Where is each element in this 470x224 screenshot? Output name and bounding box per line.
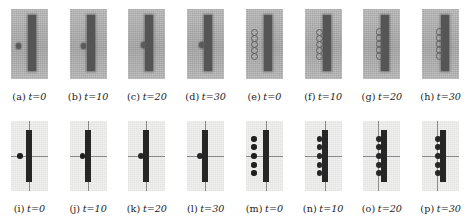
panel-cell-f: (f)t=10	[294, 0, 353, 112]
particle	[251, 144, 256, 149]
particle	[16, 43, 21, 48]
panel-i	[11, 121, 48, 191]
particle	[435, 153, 441, 159]
panel-a	[11, 9, 48, 79]
particle	[435, 170, 441, 176]
particle	[317, 144, 322, 149]
panel-k	[128, 121, 165, 191]
panel-cell-g: (g)t=20	[353, 0, 412, 112]
particle	[251, 153, 256, 158]
particle	[376, 52, 383, 59]
particle	[436, 52, 443, 59]
particle	[251, 162, 256, 167]
panel-h	[422, 9, 459, 79]
wall-bar	[263, 130, 269, 182]
particle	[317, 153, 322, 158]
panel-f	[305, 9, 342, 79]
wall-bar	[28, 15, 36, 71]
panel-cell-k: (k)t=20	[118, 112, 177, 224]
panel-caption-b: (b)t=10	[59, 92, 118, 102]
panel-caption-n: (n)t=10	[294, 204, 353, 214]
panel-caption-tag: (b)	[68, 91, 82, 102]
panel-caption-k: (k)t=20	[118, 204, 177, 214]
panel-cell-n: (n)t=10	[294, 112, 353, 224]
panel-cell-p: (p)t=30	[411, 112, 470, 224]
panel-cell-d: (d)t=30	[176, 0, 235, 112]
panel-m	[246, 121, 283, 191]
panel-j	[70, 121, 107, 191]
panel-caption-time: t=0	[25, 203, 46, 214]
panel-caption-time: t=20	[375, 203, 402, 214]
particle	[141, 42, 147, 48]
panel-caption-tag: (a)	[12, 91, 26, 102]
panel-caption-j: (j)t=10	[59, 204, 118, 214]
panel-caption-d: (d)t=30	[176, 92, 235, 102]
panel-caption-tag: (h)	[420, 91, 434, 102]
panel-caption-time: t=10	[315, 91, 342, 102]
particle	[317, 162, 322, 167]
wall-bar	[202, 130, 208, 182]
panel-caption-time: t=30	[434, 203, 461, 214]
particle	[435, 136, 441, 142]
panel-cell-o: (o)t=20	[353, 112, 412, 224]
particle	[251, 170, 256, 175]
figure-panel-grid: (a)t=0(b)t=10(c)t=20(d)t=30(e)t=0(f)t=10…	[0, 0, 470, 224]
panel-e	[246, 9, 283, 79]
panel-caption-time: t=30	[199, 91, 226, 102]
panel-caption-tag: (k)	[127, 203, 141, 214]
panel-caption-time: t=10	[80, 203, 107, 214]
panel-cell-i: (i)t=0	[0, 112, 59, 224]
wall-bar	[145, 15, 153, 71]
panel-o	[363, 121, 400, 191]
wall-bar	[440, 130, 446, 182]
panel-caption-tag: (d)	[185, 91, 199, 102]
panel-caption-tag: (i)	[14, 203, 25, 214]
panel-caption-time: t=20	[376, 91, 403, 102]
panel-caption-o: (o)t=20	[353, 204, 412, 214]
panel-l	[187, 121, 224, 191]
panel-caption-m: (m)t=0	[235, 204, 294, 214]
panel-caption-time: t=20	[140, 91, 167, 102]
particle	[316, 53, 323, 60]
particle	[17, 153, 23, 159]
figure-row-bottom: (i)t=0(j)t=10(k)t=20(l)t=30(m)t=0(n)t=10…	[0, 112, 470, 224]
particle	[199, 42, 205, 48]
panel-caption-l: (l)t=30	[176, 204, 235, 214]
particle	[317, 136, 322, 141]
panel-caption-time: t=10	[82, 91, 109, 102]
wall-bar	[322, 130, 328, 182]
panel-caption-tag: (f)	[304, 91, 315, 102]
panel-cell-h: (h)t=30	[411, 0, 470, 112]
wall-bar	[143, 130, 149, 182]
panel-caption-time: t=0	[263, 203, 284, 214]
panel-cell-j: (j)t=10	[59, 112, 118, 224]
particle	[251, 136, 256, 141]
panel-caption-tag: (m)	[246, 203, 263, 214]
wall-bar	[26, 130, 32, 182]
panel-caption-time: t=10	[317, 203, 344, 214]
wall-bar	[323, 15, 331, 71]
panel-cell-a: (a)t=0	[0, 0, 59, 112]
panel-caption-i: (i)t=0	[0, 204, 59, 214]
panel-n	[305, 121, 342, 191]
panel-caption-e: (e)t=0	[235, 92, 294, 102]
panel-c	[128, 9, 165, 79]
panel-caption-f: (f)t=10	[294, 92, 353, 102]
panel-caption-time: t=0	[261, 91, 282, 102]
wall-bar	[85, 130, 91, 182]
panel-cell-b: (b)t=10	[59, 0, 118, 112]
particle	[81, 43, 86, 48]
wall-bar	[87, 15, 95, 71]
panel-caption-a: (a)t=0	[0, 92, 59, 102]
particle	[435, 162, 441, 168]
particle	[435, 144, 441, 150]
figure-row-top: (a)t=0(b)t=10(c)t=20(d)t=30(e)t=0(f)t=10…	[0, 0, 470, 112]
panel-caption-c: (c)t=20	[118, 92, 177, 102]
particle	[251, 53, 258, 60]
panel-b	[70, 9, 107, 79]
panel-caption-time: t=30	[198, 203, 225, 214]
wall-bar	[264, 15, 272, 71]
panel-d	[187, 9, 224, 79]
panel-caption-tag: (j)	[69, 203, 80, 214]
panel-caption-tag: (p)	[420, 203, 434, 214]
